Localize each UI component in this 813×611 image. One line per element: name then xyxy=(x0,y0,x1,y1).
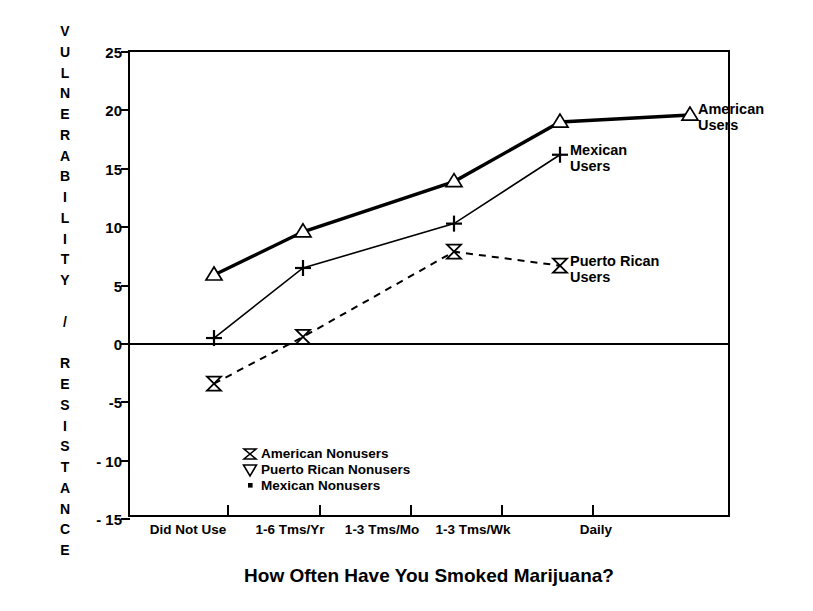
y-title-letter: C xyxy=(60,522,70,543)
y-title-letter: N xyxy=(60,86,70,107)
y-axis-tick xyxy=(121,460,130,462)
x-axis-tick-label: 1-6 Tms/Yr xyxy=(255,522,324,537)
y-title-letter: E xyxy=(60,543,69,564)
series-label-line1: Mexican xyxy=(570,142,627,158)
y-title-letter: B xyxy=(60,169,70,190)
y-title-letter: I xyxy=(63,232,67,253)
y-title-letter: I xyxy=(63,419,67,440)
plus-marker xyxy=(295,260,311,276)
y-axis-tick xyxy=(121,51,130,53)
x-axis-tick-label: 1-3 Tms/Mo xyxy=(345,522,419,537)
small-square-icon xyxy=(241,478,259,494)
y-axis-tick-label: 25 xyxy=(105,44,122,61)
series-label-mexican-users: Mexican Users xyxy=(570,142,627,174)
y-title-letter: I xyxy=(63,190,67,211)
y-axis-tick xyxy=(121,285,130,287)
y-axis-tick-label: - 10 xyxy=(96,452,122,469)
series-label-line1: Puerto Rican xyxy=(570,253,659,269)
x-axis-tick-label: 1-3 Tms/Wk xyxy=(435,522,510,537)
bowtie-open-icon xyxy=(241,446,259,462)
y-title-letter: L xyxy=(61,211,70,232)
y-title-letter: T xyxy=(61,252,70,273)
series-line xyxy=(214,155,560,338)
y-axis-tick xyxy=(121,401,130,403)
y-title-letter: A xyxy=(60,481,70,502)
plus-marker xyxy=(206,330,222,346)
legend-label: American Nonusers xyxy=(261,446,389,462)
y-axis-tick xyxy=(121,109,130,111)
triangle-down-open-icon xyxy=(241,462,259,478)
bowtie-open-marker xyxy=(296,330,310,344)
y-title-letter: R xyxy=(60,356,70,377)
series-label-line2: Users xyxy=(698,117,764,133)
y-axis-tick-label: 5 xyxy=(114,277,122,294)
y-title-letter: S xyxy=(60,439,69,460)
y-title-letter: / xyxy=(63,315,67,336)
y-axis-tick-label: - 15 xyxy=(96,511,122,528)
y-axis-tick xyxy=(121,226,130,228)
series-label-line2: Users xyxy=(570,158,627,174)
y-title-letter: E xyxy=(60,377,69,398)
triangle-up-open-marker xyxy=(682,107,698,120)
y-axis-tick-label: 20 xyxy=(105,102,122,119)
chart-root: V U L N E R A B I L I T Y / R E S I S T … xyxy=(0,0,813,611)
y-title-letter: Y xyxy=(60,273,69,294)
y-axis-tick-label: -5 xyxy=(109,394,122,411)
y-title-letter: E xyxy=(60,107,69,128)
legend-label: Mexican Nonusers xyxy=(261,478,380,494)
y-axis-tick-label: 10 xyxy=(105,219,122,236)
plus-marker xyxy=(446,216,462,232)
y-title-letter: S xyxy=(60,398,69,419)
series-line xyxy=(214,115,690,275)
y-axis-tick-label: 15 xyxy=(105,160,122,177)
bowtie-open-marker xyxy=(207,377,221,391)
y-title-letter: V xyxy=(60,24,69,45)
plus-marker xyxy=(552,147,568,163)
bowtie-open-marker xyxy=(553,259,567,273)
series-label-line2: Users xyxy=(570,269,659,285)
y-title-letter: N xyxy=(60,502,70,523)
x-axis-tick-label: Did Not Use xyxy=(150,522,227,537)
series-label-american-users: American Users xyxy=(698,101,764,133)
y-title-letter: A xyxy=(60,149,70,170)
y-title-letter: R xyxy=(60,128,70,149)
y-axis-tick-label: 0 xyxy=(114,335,122,352)
y-title-letter: L xyxy=(61,66,70,87)
y-axis-tick xyxy=(121,518,130,520)
series-label-line1: American xyxy=(698,101,764,117)
y-title-letter: U xyxy=(60,45,70,66)
y-axis-tick xyxy=(121,343,130,345)
y-axis-tick xyxy=(121,168,130,170)
y-title-letter: T xyxy=(61,460,70,481)
x-axis-title: How Often Have You Smoked Marijuana? xyxy=(128,565,730,587)
series-line xyxy=(214,252,560,384)
legend-label: Puerto Rican Nonusers xyxy=(261,462,410,478)
x-axis-tick-label: Daily xyxy=(580,522,612,537)
series-label-puerto-rican-users: Puerto Rican Users xyxy=(570,253,659,285)
y-axis-title: V U L N E R A B I L I T Y / R E S I S T … xyxy=(52,24,78,564)
